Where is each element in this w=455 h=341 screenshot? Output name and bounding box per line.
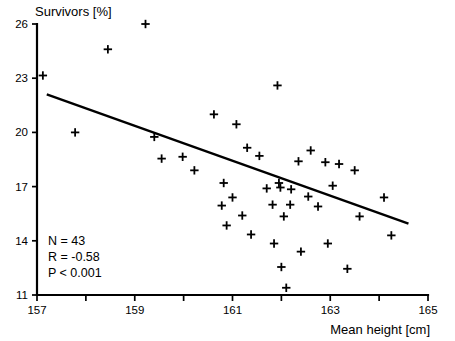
data-point-marker [255,152,263,160]
data-point-marker [39,71,47,79]
plot-canvas: 111417202326 157159161163165 Survivors [… [0,0,455,341]
x-axis-title: Mean height [cm] [330,322,430,337]
annotation-correlation: R = -0.58 [48,250,100,264]
data-point-marker [350,166,358,174]
regression-line-layer [47,94,409,223]
annotation-sample-size: N = 43 [48,234,85,248]
data-point-marker [287,185,295,193]
y-axis-tick-label: 23 [15,72,28,84]
data-point-marker [268,200,276,208]
data-point-marker [335,160,343,168]
data-point-marker [243,144,251,152]
data-point-marker [324,239,332,247]
data-point-marker [328,181,336,189]
y-axis-tick-label: 17 [15,181,28,193]
data-point-marker [218,201,226,209]
data-point-marker [307,146,315,154]
y-axis-tick-label: 20 [15,126,28,138]
data-point-marker [294,157,302,165]
data-point-marker [238,211,246,219]
data-point-marker [280,212,288,220]
regression-trend-line [47,94,409,223]
y-axis-tick-label: 11 [16,289,28,301]
y-axis: 111417202326 [15,18,37,301]
data-point-marker [297,247,305,255]
x-axis-tick-label: 165 [418,304,437,316]
data-point-marker [286,200,294,208]
x-axis-tick-label: 161 [223,304,242,316]
data-point-marker [277,263,285,271]
data-point-marker [380,193,388,201]
data-point-marker [343,265,351,273]
data-point-marker [222,221,230,229]
data-point-marker [232,120,240,128]
data-point-marker [273,81,281,89]
data-point-marker [304,192,312,200]
y-axis-tick-label: 26 [15,18,28,30]
data-point-marker [157,154,165,162]
data-point-marker [104,45,112,53]
data-point-marker [178,153,186,161]
data-point-marker [190,166,198,174]
x-axis-tick-label: 163 [321,304,340,316]
data-point-marker [276,183,284,191]
data-point-marker [282,284,290,292]
x-axis-tick-label: 157 [27,304,46,316]
data-point-marker [270,239,278,247]
y-axis-title: Survivors [%] [35,4,112,19]
data-point-marker [314,202,322,210]
data-point-marker [387,231,395,239]
x-axis-tick-label: 159 [125,304,144,316]
data-point-marker [321,158,329,166]
data-point-marker [210,110,218,118]
data-point-marker [220,179,228,187]
data-point-marker [275,179,283,187]
data-point-marker [263,184,271,192]
data-point-marker [247,230,255,238]
data-point-marker [228,193,236,201]
annotation-pvalue: P < 0.001 [48,266,102,280]
y-axis-tick-label: 14 [15,235,28,247]
data-point-marker [141,20,149,28]
data-point-marker [71,128,79,136]
scatter-plot-figure: 111417202326 157159161163165 Survivors [… [0,0,455,341]
data-point-marker [355,212,363,220]
x-axis: 157159161163165 [27,295,437,316]
